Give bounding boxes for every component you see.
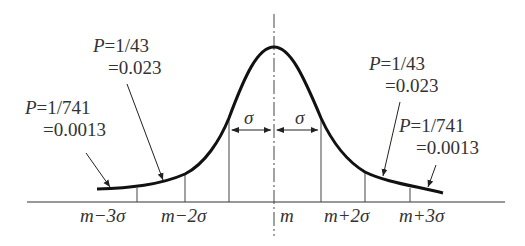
arrow-left-3s [86, 153, 110, 187]
annotation-left-3s-val: =0.0013 [43, 120, 106, 140]
sigma-label-right: σ [295, 108, 304, 128]
axis-label-m-3s: m−3σ [80, 206, 125, 226]
arrow-right-2s [383, 102, 400, 176]
axis-label-m+3s: m+3σ [399, 206, 444, 226]
annotation-left-2s-val: =0.023 [108, 58, 161, 78]
axis-label-m-2s: m−2σ [161, 206, 206, 226]
axis-label-m: m [280, 206, 294, 226]
arrow-right-3s [428, 165, 436, 187]
axis-label-m+2s: m+2σ [324, 206, 369, 226]
annotation-right-3s-p: P=1/741 [399, 116, 465, 136]
arrow-left-2s [127, 84, 163, 180]
annotation-right-2s-val: =0.023 [385, 76, 438, 96]
annotation-left-2s-p: PP=1/43=1/43 [93, 36, 149, 56]
annotation-right-2s-p: P=1/43 [369, 54, 425, 74]
annotation-right-3s-val: =0.0013 [416, 138, 479, 158]
sigma-label-left: σ [244, 108, 253, 128]
annotation-left-3s-p: P=1/741 [25, 98, 91, 118]
